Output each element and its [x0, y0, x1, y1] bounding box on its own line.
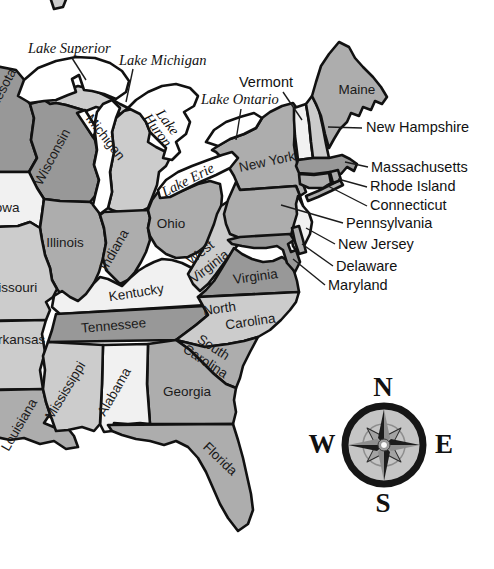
state-label-arkansas: Arkansas	[0, 332, 46, 347]
compass-hub	[381, 442, 388, 449]
lake-label-michigan: Lake Michigan	[118, 52, 206, 68]
state-shape-arkansas	[0, 320, 46, 390]
leader-connecticut	[326, 185, 367, 206]
lake-label-ontario: Lake Ontario	[200, 91, 279, 107]
lake-label-superior: Lake Superior	[27, 40, 111, 56]
state-shape-rhode-island	[330, 170, 341, 183]
compass-letter-south: S	[375, 488, 390, 518]
state-label-illinois: Illinois	[46, 235, 84, 250]
callout-label-connecticut: Connecticut	[370, 197, 447, 213]
compass-rose	[345, 406, 423, 484]
callout-label-massachusetts: Massachusetts	[371, 159, 468, 175]
callout-label-vermont: Vermont	[239, 74, 293, 90]
callout-label-pennsylvania: Pennsylvania	[346, 215, 433, 231]
callout-label-rhode-island: Rhode Island	[370, 178, 455, 194]
callout-label-maryland: Maryland	[328, 277, 388, 293]
state-label-ohio: Ohio	[157, 216, 186, 231]
state-label-missouri: Missouri	[0, 280, 37, 295]
compass-letter-north: N	[373, 372, 393, 402]
state-shape-florida	[108, 424, 253, 531]
state-shape-massachusetts	[296, 155, 357, 174]
isle-royale-shape	[50, 0, 67, 9]
state-label-iowa: Iowa	[0, 200, 20, 215]
state-label-georgia: Georgia	[163, 384, 212, 399]
compass-letter-west: W	[309, 429, 336, 459]
state-label-maine: Maine	[339, 82, 376, 97]
leader-delaware	[302, 244, 333, 266]
callout-label-new-jersey: New Jersey	[338, 236, 414, 252]
callout-label-delaware: Delaware	[336, 258, 397, 274]
compass-letter-east: E	[435, 429, 453, 459]
map-canvas: Lake Superior Lake Michigan Lake Ontario…	[0, 0, 494, 569]
callout-label-new-hampshire: New Hampshire	[366, 119, 469, 135]
leader-new-hampshire	[328, 127, 362, 128]
